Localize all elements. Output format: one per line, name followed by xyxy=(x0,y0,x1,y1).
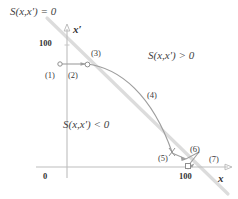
diagonal-line-s-equals-zero xyxy=(47,18,228,194)
y-tick-label-100: 100 xyxy=(39,39,52,48)
point-label-2: (2) xyxy=(68,71,78,80)
figure-canvas: S(x,x′) = 0 S(x,x′) > 0 S(x,x′) < 0 100 … xyxy=(0,0,238,199)
marker-point-7 xyxy=(186,164,191,169)
label-region-negative: S(x,x′) < 0 xyxy=(63,119,109,130)
diagram-svg xyxy=(0,0,238,199)
point-label-4: (4) xyxy=(147,91,157,100)
y-axis-label: x′ xyxy=(73,24,82,35)
point-label-1: (1) xyxy=(45,71,55,80)
point-label-7: (7) xyxy=(209,155,219,164)
label-region-positive: S(x,x′) > 0 xyxy=(148,50,194,61)
label-s-equals-zero: S(x,x′) = 0 xyxy=(10,6,56,17)
origin-label: 0 xyxy=(43,172,47,181)
point-label-5: (5) xyxy=(158,154,168,163)
point-label-6: (6) xyxy=(190,145,200,154)
trajectory-curve xyxy=(87,64,172,152)
x-tick-label-100: 100 xyxy=(179,172,192,181)
point-label-3: (3) xyxy=(91,49,101,58)
x-axis-label: x xyxy=(218,173,224,184)
marker-point-3 xyxy=(85,62,90,67)
marker-point-1 xyxy=(58,62,62,66)
